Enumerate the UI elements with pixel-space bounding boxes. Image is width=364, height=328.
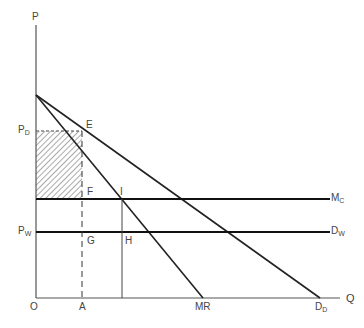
point-f-label: F [87, 187, 93, 197]
point-e-label: E [86, 120, 93, 130]
mc-curve-label: MC [331, 193, 344, 204]
pw-label: PW [18, 226, 31, 237]
x-axis-label: Q [346, 293, 355, 304]
point-i-label: I [120, 187, 123, 197]
origin-label: O [30, 302, 38, 312]
diagram-canvas [0, 0, 364, 328]
dw-curve-label: DW [331, 226, 345, 237]
pd-label: PD [18, 125, 30, 136]
y-axis-label: P [32, 12, 39, 22]
mr-curve-label: MR [195, 302, 211, 312]
shaded-region [36, 131, 82, 199]
point-a-label: A [79, 302, 86, 312]
point-g-label: G [87, 236, 95, 246]
dd-curve-label: DD [315, 302, 327, 313]
point-h-label: H [125, 236, 132, 246]
